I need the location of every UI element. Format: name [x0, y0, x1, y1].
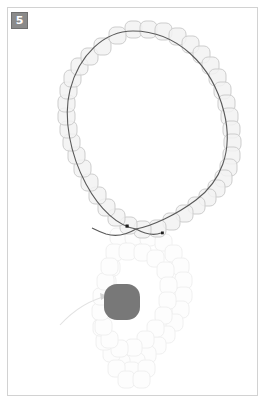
beading-illustration [0, 0, 267, 405]
step-number-badge: 5 [11, 12, 28, 29]
thread-endpoint-marker-b [161, 232, 164, 235]
thread-endpoint-marker-a [126, 225, 129, 228]
diagram-root: 5 [0, 0, 267, 405]
bead-loop-group [58, 21, 241, 238]
focal-bead [104, 284, 140, 320]
